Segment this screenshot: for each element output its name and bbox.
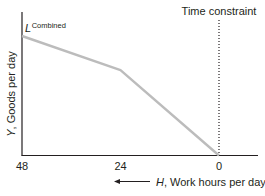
- chart: Y, Goods per day Time constraint LCombin…: [0, 0, 265, 196]
- x-tick-label: 24: [114, 160, 126, 172]
- x-axis-label-text: , Work hours per day: [164, 176, 265, 188]
- x-tick-label: 0: [216, 160, 222, 172]
- x-axis-arrow-head: [114, 179, 120, 184]
- x-tick-label: 48: [16, 160, 28, 172]
- time-constraint-label: Time constraint: [182, 5, 257, 17]
- x-axis-label-var: H: [156, 176, 164, 188]
- combined-line: [22, 36, 219, 156]
- y-axis-label-text: , Goods per day: [5, 51, 17, 130]
- combined-line-label-main: L: [25, 22, 31, 34]
- y-axis-label: Y, Goods per day: [5, 51, 17, 137]
- combined-line-label-super: Combined: [32, 21, 66, 30]
- x-axis-label: H, Work hours per day: [156, 176, 265, 188]
- combined-line-label: LCombined: [25, 21, 66, 34]
